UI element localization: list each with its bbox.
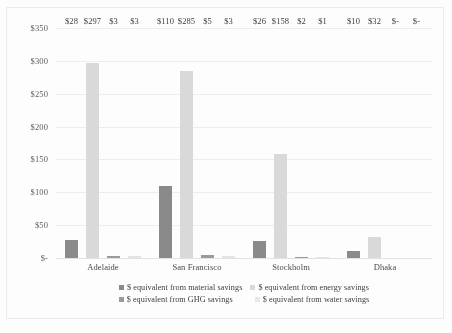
- legend-swatch-icon: [255, 297, 260, 302]
- y-tick-label: $-: [0, 253, 48, 263]
- y-tick-label: $200: [0, 122, 48, 132]
- legend-item-ghg[interactable]: $ equivalent from GHG savings: [119, 295, 233, 304]
- x-axis-labels: Adelaide San Francisco Stockholm Dhaka: [56, 262, 432, 272]
- bar-item[interactable]: $297: [86, 28, 99, 258]
- bar-energy[interactable]: [274, 154, 287, 258]
- bar-item[interactable]: $-: [410, 28, 423, 258]
- bar-item[interactable]: $-: [389, 28, 402, 258]
- bar-water[interactable]: [222, 256, 235, 258]
- bar-item[interactable]: $3: [222, 28, 235, 258]
- bar-ghg[interactable]: [107, 256, 120, 258]
- bar-item[interactable]: $10: [347, 28, 360, 258]
- bar-value-label: $297: [84, 16, 101, 26]
- bar-value-label: $3: [109, 16, 118, 26]
- bar-chart: $350 $300 $250 $200 $150 $100 $50 $- $28: [0, 0, 452, 333]
- bar-value-label: $32: [368, 16, 381, 26]
- y-tick-label: $350: [0, 23, 48, 33]
- bar-value-label: $-: [413, 16, 420, 26]
- bar-water[interactable]: [128, 256, 141, 258]
- legend-label: $ equivalent from GHG savings: [127, 295, 233, 304]
- bar-ghg[interactable]: [295, 257, 308, 259]
- legend-swatch-icon: [250, 285, 255, 290]
- bar-item[interactable]: $5: [201, 28, 214, 258]
- bar-value-label: $3: [224, 16, 233, 26]
- bar-item[interactable]: $285: [180, 28, 193, 258]
- y-tick-label: $50: [0, 220, 48, 230]
- bar-value-label: $26: [253, 16, 266, 26]
- chart-legend: $ equivalent from material savings $ equ…: [56, 283, 432, 307]
- bar-item[interactable]: $1: [316, 28, 329, 258]
- bar-value-label: $10: [347, 16, 360, 26]
- bar-item[interactable]: $3: [107, 28, 120, 258]
- bar-item[interactable]: $3: [128, 28, 141, 258]
- bar-item[interactable]: $28: [65, 28, 78, 258]
- legend-label: $ equivalent from water savings: [263, 295, 370, 304]
- bar-value-label: $110: [157, 16, 174, 26]
- bar-material[interactable]: [65, 240, 78, 258]
- x-tick-label-stockholm: Stockholm: [244, 262, 338, 272]
- legend-row: $ equivalent from material savings $ equ…: [56, 283, 432, 292]
- legend-label: $ equivalent from material savings: [127, 283, 242, 292]
- bar-group-adelaide: $28 $297 $3 $3: [56, 28, 150, 258]
- bar-item[interactable]: $26: [253, 28, 266, 258]
- bar-energy[interactable]: [368, 237, 381, 258]
- bar-value-label: $28: [65, 16, 78, 26]
- bar-ghg[interactable]: [201, 255, 214, 258]
- bar-value-label: $1: [318, 16, 327, 26]
- bar-item[interactable]: $2: [295, 28, 308, 258]
- bar-group-dhaka: $10 $32 $- $-: [338, 28, 432, 258]
- bar-material[interactable]: [159, 186, 172, 258]
- bar-water[interactable]: [316, 257, 329, 258]
- legend-swatch-icon: [119, 285, 124, 290]
- bar-value-label: $158: [272, 16, 289, 26]
- legend-swatch-icon: [119, 297, 124, 302]
- bar-value-label: $5: [203, 16, 212, 26]
- bar-item[interactable]: $32: [368, 28, 381, 258]
- legend-label: $ equivalent from energy savings: [258, 283, 369, 292]
- x-tick-label-san-francisco: San Francisco: [150, 262, 244, 272]
- bar-item[interactable]: $158: [274, 28, 287, 258]
- bar-item[interactable]: $110: [159, 28, 172, 258]
- y-tick-label: $300: [0, 56, 48, 66]
- legend-item-water[interactable]: $ equivalent from water savings: [255, 295, 370, 304]
- x-tick-label-dhaka: Dhaka: [338, 262, 432, 272]
- x-tick-label-adelaide: Adelaide: [56, 262, 150, 272]
- bar-group-stockholm: $26 $158 $2 $1: [244, 28, 338, 258]
- bar-energy[interactable]: [86, 63, 99, 258]
- legend-item-energy[interactable]: $ equivalent from energy savings: [250, 283, 369, 292]
- y-axis-labels: $350 $300 $250 $200 $150 $100 $50 $-: [0, 28, 50, 258]
- y-tick-label: $100: [0, 187, 48, 197]
- bar-groups: $28 $297 $3 $3 $110: [56, 28, 432, 258]
- y-tick-label: $250: [0, 89, 48, 99]
- bar-group-san-francisco: $110 $285 $5 $3: [150, 28, 244, 258]
- bar-value-label: $285: [178, 16, 195, 26]
- legend-row: $ equivalent from GHG savings $ equivale…: [56, 295, 432, 304]
- bar-energy[interactable]: [180, 71, 193, 258]
- bar-value-label: $3: [130, 16, 139, 26]
- bar-value-label: $-: [392, 16, 399, 26]
- y-tick-label: $150: [0, 154, 48, 164]
- legend-item-material[interactable]: $ equivalent from material savings: [119, 283, 242, 292]
- bar-material[interactable]: [253, 241, 266, 258]
- bar-material[interactable]: [347, 251, 360, 258]
- bar-value-label: $2: [297, 16, 306, 26]
